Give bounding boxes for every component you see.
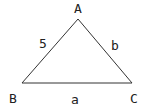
triangle-diagram: A B C 5 b a bbox=[0, 0, 145, 110]
side-label-ab: 5 bbox=[39, 36, 47, 51]
side-label-bc: a bbox=[71, 92, 79, 107]
vertex-label-c: C bbox=[130, 91, 138, 106]
side-ab bbox=[22, 19, 78, 83]
vertex-label-b: B bbox=[9, 91, 17, 106]
side-ac bbox=[78, 19, 132, 83]
vertex-label-a: A bbox=[74, 1, 82, 16]
side-label-ac: b bbox=[111, 38, 119, 53]
